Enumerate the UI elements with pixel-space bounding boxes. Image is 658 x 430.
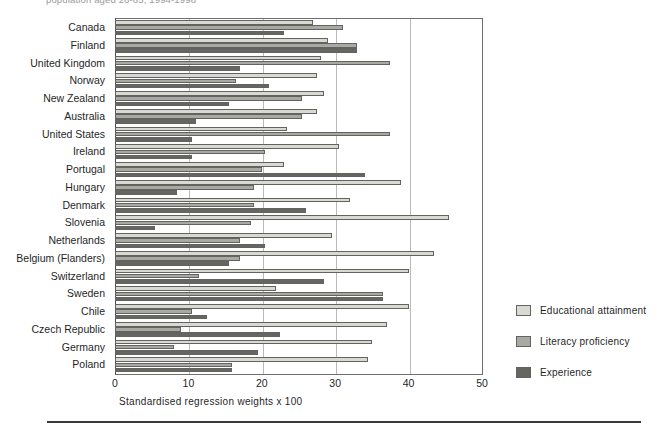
bar-group bbox=[115, 72, 482, 90]
bar-group bbox=[115, 55, 482, 73]
category-label: Chile bbox=[0, 303, 110, 321]
x-tick-label: 40 bbox=[403, 377, 415, 389]
bar-group bbox=[115, 356, 482, 374]
bar bbox=[115, 56, 321, 61]
bar bbox=[115, 279, 324, 284]
category-label: Belgium (Flanders) bbox=[0, 250, 110, 268]
bar bbox=[115, 162, 284, 167]
legend-item: Experience bbox=[516, 357, 656, 388]
category-label: Switzerland bbox=[0, 268, 110, 286]
bar-group bbox=[115, 126, 482, 144]
bar-group bbox=[115, 214, 482, 232]
category-label: United Kingdom bbox=[0, 55, 110, 73]
bar bbox=[115, 304, 409, 309]
category-label: Finland bbox=[0, 37, 110, 55]
bar bbox=[115, 173, 365, 178]
bar-group bbox=[115, 321, 482, 339]
category-label: Ireland bbox=[0, 143, 110, 161]
bar bbox=[115, 208, 306, 213]
bar bbox=[115, 256, 240, 261]
legend-item: Literacy proficiency bbox=[516, 326, 656, 357]
category-label: Portugal bbox=[0, 161, 110, 179]
x-axis-label: Standardised regression weights x 100 bbox=[119, 396, 302, 407]
category-label: Czech Republic bbox=[0, 321, 110, 339]
category-label: Slovenia bbox=[0, 214, 110, 232]
bar bbox=[115, 84, 269, 89]
bar bbox=[115, 350, 258, 355]
bar bbox=[115, 190, 177, 195]
category-label: Netherlands bbox=[0, 232, 110, 250]
bar bbox=[115, 322, 387, 327]
bar-group bbox=[115, 197, 482, 215]
bar bbox=[115, 297, 383, 302]
x-axis-ticks: 01020304050 bbox=[115, 377, 483, 393]
x-tick-label: 30 bbox=[329, 377, 341, 389]
bar-group bbox=[115, 285, 482, 303]
bar-group bbox=[115, 161, 482, 179]
bar bbox=[115, 221, 251, 226]
bar bbox=[115, 226, 155, 231]
bar bbox=[115, 61, 390, 66]
category-label: Sweden bbox=[0, 285, 110, 303]
bar bbox=[115, 274, 199, 279]
x-tick-label: 0 bbox=[112, 377, 118, 389]
category-label: Germany bbox=[0, 339, 110, 357]
bar-group bbox=[115, 19, 482, 37]
bar bbox=[115, 150, 265, 155]
bar-group bbox=[115, 108, 482, 126]
category-label: Australia bbox=[0, 108, 110, 126]
legend-label: Educational attainment bbox=[540, 305, 646, 316]
bar bbox=[115, 261, 229, 266]
legend-label: Experience bbox=[540, 367, 592, 378]
bar bbox=[115, 269, 409, 274]
x-tick-label: 20 bbox=[256, 377, 268, 389]
bar bbox=[115, 109, 317, 114]
category-label: New Zealand bbox=[0, 90, 110, 108]
bar bbox=[115, 345, 174, 350]
bar bbox=[115, 20, 313, 25]
bar bbox=[115, 25, 343, 30]
bar bbox=[115, 119, 196, 124]
bar bbox=[115, 292, 383, 297]
bar bbox=[115, 315, 207, 320]
bar-group bbox=[115, 268, 482, 286]
bar-group bbox=[115, 37, 482, 55]
bar bbox=[115, 48, 357, 53]
legend-swatch bbox=[516, 305, 531, 316]
bar bbox=[115, 137, 192, 142]
legend-item: Educational attainment bbox=[516, 295, 656, 326]
legend-label: Literacy proficiency bbox=[540, 336, 630, 347]
bar bbox=[115, 31, 284, 36]
category-label: Norway bbox=[0, 72, 110, 90]
bar bbox=[115, 238, 240, 243]
bar-group bbox=[115, 339, 482, 357]
bar bbox=[115, 340, 372, 345]
legend: Educational attainmentLiteracy proficien… bbox=[516, 295, 656, 388]
bar-group bbox=[115, 90, 482, 108]
bar bbox=[115, 180, 401, 185]
bar bbox=[115, 66, 240, 71]
bar bbox=[115, 102, 229, 107]
bar bbox=[115, 203, 254, 208]
bar bbox=[115, 363, 232, 368]
bar bbox=[115, 251, 434, 256]
category-label: United States bbox=[0, 126, 110, 144]
category-label: Poland bbox=[0, 356, 110, 374]
category-axis-labels: CanadaFinlandUnited KingdomNorwayNew Zea… bbox=[0, 19, 110, 374]
x-tick-label: 10 bbox=[183, 377, 195, 389]
bar bbox=[115, 185, 254, 190]
legend-swatch bbox=[516, 367, 531, 378]
category-label: Denmark bbox=[0, 197, 110, 215]
bottom-divider bbox=[47, 421, 641, 423]
bar bbox=[115, 155, 192, 160]
bar bbox=[115, 96, 302, 101]
bar-rows bbox=[115, 19, 482, 374]
bar bbox=[115, 233, 332, 238]
category-label: Hungary bbox=[0, 179, 110, 197]
bar-group bbox=[115, 179, 482, 197]
bar bbox=[115, 167, 262, 172]
bar-group bbox=[115, 232, 482, 250]
bar bbox=[115, 357, 368, 362]
bar-group bbox=[115, 250, 482, 268]
bar bbox=[115, 215, 449, 220]
